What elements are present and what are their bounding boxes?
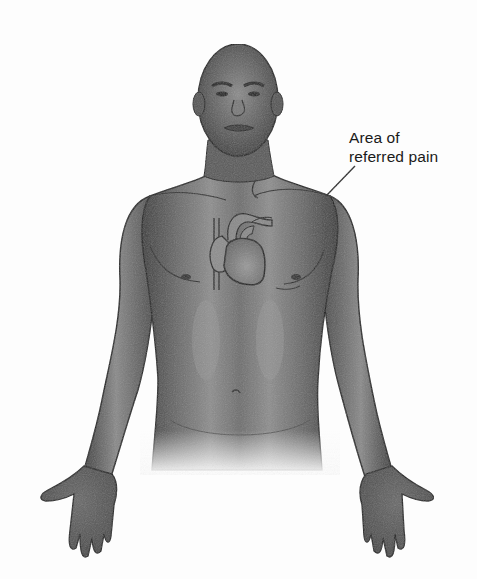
torso-fade xyxy=(140,430,340,475)
abdomen-highlight-right xyxy=(256,300,284,380)
left-nipple xyxy=(181,274,191,280)
left-ear xyxy=(193,92,205,116)
left-eye xyxy=(216,92,228,97)
referred-pain-label: Area of referred pain xyxy=(349,128,438,166)
nose xyxy=(232,100,245,116)
torso xyxy=(142,168,338,470)
body-illustration xyxy=(0,0,477,579)
callout-line-2: referred pain xyxy=(349,147,438,166)
right-ear xyxy=(271,92,283,116)
callout-leader-line xyxy=(326,166,355,196)
right-hand xyxy=(360,466,434,557)
abdomen-highlight-left xyxy=(192,300,220,380)
heart-icon xyxy=(210,214,272,290)
right-nipple xyxy=(291,274,301,280)
callout-line-1: Area of xyxy=(349,128,438,147)
left-hand xyxy=(41,466,117,557)
referred-pain-figure: Area of referred pain xyxy=(0,0,477,579)
right-eye xyxy=(248,92,260,97)
